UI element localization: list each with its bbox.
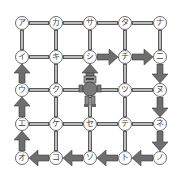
grid-edge: [54, 30, 58, 50]
arrow-down-icon: [152, 131, 168, 151]
arrow-right-icon: [97, 49, 118, 65]
grid-node: エ: [15, 117, 29, 131]
grid-edge: [63, 21, 83, 25]
grid-node: シ: [83, 50, 97, 64]
arrow-up-icon: [14, 131, 30, 151]
grid-edge: [123, 64, 127, 83]
grid-diagram: アカサタナイキシチニウクツヌエケセテネオコソトノ: [0, 0, 178, 170]
grid-node: イ: [15, 50, 29, 64]
arrow-left-icon: [29, 150, 49, 166]
grid-node: タ: [118, 16, 132, 30]
arrow-down-icon: [152, 64, 168, 83]
grid-edge: [29, 21, 49, 25]
grid-edge: [20, 30, 24, 50]
grid-edge: [88, 30, 92, 50]
grid-edge: [54, 64, 58, 83]
grid-edge: [54, 131, 58, 151]
grid-node: ナ: [153, 16, 167, 30]
grid-edge: [29, 55, 49, 59]
grid-edge: [97, 21, 118, 25]
grid-edge: [29, 122, 49, 126]
grid-node: ネ: [153, 117, 167, 131]
grid-edge: [88, 131, 92, 151]
grid-edge: [158, 30, 162, 50]
grid-node: セ: [83, 117, 97, 131]
grid-edge: [132, 21, 153, 25]
grid-node: サ: [83, 16, 97, 30]
grid-edge: [63, 55, 83, 59]
grid-edge: [63, 122, 83, 126]
grid-node: コ: [49, 151, 63, 165]
robot-icon: [76, 72, 104, 108]
arrow-left-icon: [97, 150, 118, 166]
grid-node: ト: [118, 151, 132, 165]
grid-node: ツ: [118, 83, 132, 97]
grid-node: ヌ: [153, 83, 167, 97]
grid-edge: [132, 88, 153, 92]
arrow-down-icon: [152, 97, 168, 117]
grid-edge: [29, 88, 49, 92]
grid-edge: [123, 97, 127, 117]
grid-edge: [97, 122, 118, 126]
grid-node: ク: [49, 83, 63, 97]
arrow-up-icon: [14, 64, 30, 83]
grid-node: オ: [15, 151, 29, 165]
grid-node: ウ: [15, 83, 29, 97]
grid-node: テ: [118, 117, 132, 131]
grid-node: ソ: [83, 151, 97, 165]
arrow-left-icon: [63, 150, 83, 166]
grid-node: キ: [49, 50, 63, 64]
arrow-up-icon: [14, 97, 30, 117]
grid-node: ケ: [49, 117, 63, 131]
grid-node: ノ: [153, 151, 167, 165]
grid-node: カ: [49, 16, 63, 30]
grid-edge: [123, 30, 127, 50]
grid-node: ア: [15, 16, 29, 30]
arrow-left-icon: [132, 150, 153, 166]
arrow-right-icon: [132, 49, 153, 65]
grid-edge: [54, 97, 58, 117]
grid-node: ニ: [153, 50, 167, 64]
grid-edge: [123, 131, 127, 151]
grid-edge: [132, 122, 153, 126]
grid-node: チ: [118, 50, 132, 64]
